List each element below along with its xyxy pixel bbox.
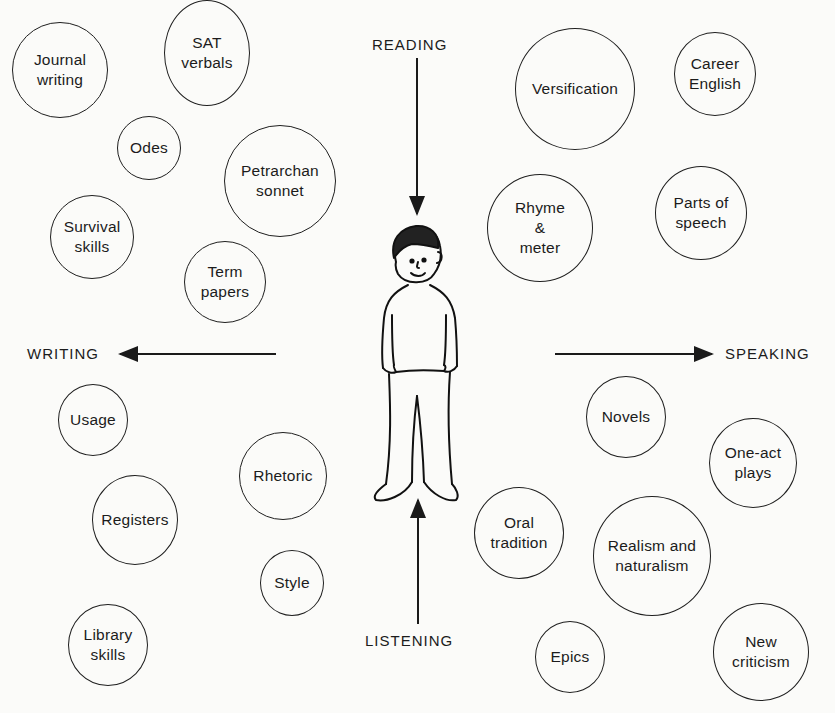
topic-label: Realism and naturalism bbox=[608, 536, 696, 576]
topic-bubble-one-act-plays: One-act plays bbox=[709, 418, 797, 508]
skill-label-reading: READING bbox=[372, 36, 447, 53]
topic-label: Rhetoric bbox=[253, 466, 312, 486]
topic-bubble-term-papers: Term papers bbox=[184, 241, 266, 323]
topic-label: Registers bbox=[101, 510, 168, 530]
topic-label: SAT verbals bbox=[181, 33, 232, 73]
topic-label: Petrarchan sonnet bbox=[241, 161, 319, 201]
topic-label: Library skills bbox=[84, 625, 133, 665]
topic-label: Usage bbox=[70, 410, 116, 430]
topic-label: Epics bbox=[551, 647, 590, 667]
topic-bubble-odes: Odes bbox=[117, 116, 181, 180]
topic-bubble-versification: Versification bbox=[515, 28, 635, 150]
child-figure-icon bbox=[375, 226, 458, 500]
topic-bubble-library-skills: Library skills bbox=[68, 604, 148, 686]
topic-label: Novels bbox=[602, 407, 651, 427]
topic-bubble-petrarchan-sonnet: Petrarchan sonnet bbox=[224, 125, 336, 237]
topic-bubble-registers: Registers bbox=[92, 475, 178, 565]
topic-label: Journal writing bbox=[34, 50, 86, 90]
topic-bubble-realism-naturalism: Realism and naturalism bbox=[593, 496, 711, 616]
topic-bubble-novels: Novels bbox=[586, 376, 666, 458]
skill-label-speaking: SPEAKING bbox=[725, 345, 810, 362]
topic-bubble-new-criticism: New criticism bbox=[713, 603, 809, 701]
topic-bubble-epics: Epics bbox=[535, 621, 605, 693]
topic-label: New criticism bbox=[732, 632, 790, 672]
topic-bubble-journal-writing: Journal writing bbox=[12, 22, 108, 118]
topic-label: Survival skills bbox=[64, 217, 121, 257]
topic-label: Style bbox=[274, 573, 309, 593]
topic-bubble-oral-tradition: Oral tradition bbox=[474, 487, 564, 579]
topic-label: Parts of speech bbox=[673, 193, 728, 233]
topic-bubble-usage: Usage bbox=[58, 384, 128, 456]
language-arts-diagram: READING WRITING SPEAKING LISTENING Journ… bbox=[0, 0, 835, 713]
skill-label-listening: LISTENING bbox=[365, 632, 453, 649]
topic-label: Odes bbox=[130, 138, 168, 158]
topic-bubble-sat-verbals: SAT verbals bbox=[164, 0, 250, 106]
topic-label: Career English bbox=[689, 54, 741, 94]
topic-bubble-parts-of-speech: Parts of speech bbox=[655, 166, 747, 260]
topic-bubble-survival-skills: Survival skills bbox=[50, 195, 134, 279]
topic-label: Versification bbox=[532, 79, 618, 99]
topic-label: One-act plays bbox=[725, 443, 782, 483]
topic-label: Oral tradition bbox=[491, 513, 548, 553]
topic-label: Rhyme & meter bbox=[515, 198, 565, 258]
topic-bubble-style: Style bbox=[260, 550, 324, 616]
topic-bubble-rhetoric: Rhetoric bbox=[239, 432, 327, 520]
topic-bubble-rhyme-meter: Rhyme & meter bbox=[487, 174, 593, 282]
topic-bubble-career-english: Career English bbox=[674, 32, 756, 116]
skill-label-writing: WRITING bbox=[27, 345, 99, 362]
topic-label: Term papers bbox=[201, 262, 250, 302]
